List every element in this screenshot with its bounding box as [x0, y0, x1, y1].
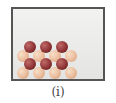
light-sphere [65, 67, 77, 79]
dark-sphere [56, 58, 68, 70]
dark-sphere [56, 41, 68, 53]
dark-sphere [24, 41, 36, 53]
dark-sphere [24, 58, 36, 70]
dark-sphere [40, 58, 52, 70]
dark-sphere [40, 41, 52, 53]
figure-caption: (i) [0, 85, 116, 99]
